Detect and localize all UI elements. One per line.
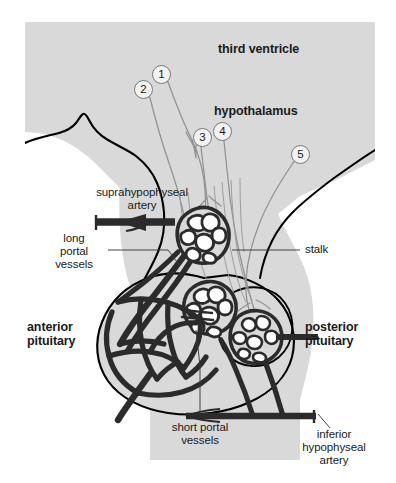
anatomy-diagram: third ventricle hypothalamus suprahypoph… — [0, 0, 396, 483]
callout-circle-4[interactable]: 4 — [213, 122, 232, 141]
secondary-capillary-plexus — [184, 282, 236, 337]
callout-circle-5[interactable]: 5 — [291, 145, 310, 164]
callout-circle-2[interactable]: 2 — [134, 80, 153, 99]
callout-circle-1[interactable]: 1 — [152, 65, 171, 84]
diagram-canvas — [0, 0, 396, 483]
posterior-capillary-plexus — [230, 311, 282, 364]
callout-circle-3[interactable]: 3 — [193, 128, 212, 147]
